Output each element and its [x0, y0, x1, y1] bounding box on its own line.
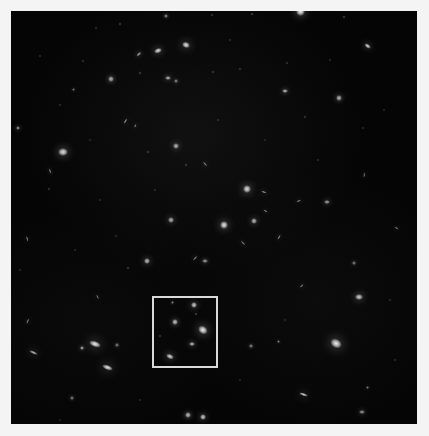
sky-source-point: [115, 235, 117, 237]
sky-source-point: [127, 267, 130, 270]
sky-source-point: [239, 379, 241, 381]
sky-source-point: [359, 410, 364, 414]
sky-source-point: [119, 23, 122, 26]
sky-source-edge-on: [299, 284, 304, 289]
sky-source-point: [59, 419, 61, 421]
sky-source-edge-on: [299, 392, 309, 398]
sky-source-edge-on: [96, 294, 100, 300]
sky-source-point: [108, 76, 113, 81]
sky-source-point: [249, 344, 253, 348]
sky-source-point: [80, 346, 84, 350]
sky-source-point: [202, 259, 207, 263]
sky-source-point: [362, 127, 364, 129]
sky-source-edge-on: [25, 236, 29, 243]
sky-source-point: [264, 139, 266, 141]
sky-source-star: [220, 221, 229, 229]
sky-source-edge-on: [26, 318, 30, 324]
sky-source-point: [211, 14, 213, 16]
sky-source-point: [366, 386, 369, 389]
sky-source-point: [95, 27, 97, 29]
sky-source-point: [164, 14, 167, 17]
sky-source-galaxy: [251, 218, 257, 224]
sky-source-edge-on: [240, 240, 246, 246]
sky-source-edge-on: [192, 255, 198, 261]
sky-source-point: [39, 55, 41, 57]
sky-source-star: [296, 11, 305, 16]
sky-field: [11, 11, 417, 424]
sky-source-point: [48, 188, 50, 190]
sky-source-galaxy: [282, 89, 288, 94]
sky-source-edge-on: [261, 190, 267, 194]
sky-source-galaxy: [58, 148, 67, 156]
sky-source-galaxy: [144, 258, 151, 264]
sky-source-galaxy: [355, 294, 363, 300]
region-of-interest-box[interactable]: [152, 296, 218, 368]
sky-source-point: [394, 359, 396, 361]
sky-source-point: [383, 109, 385, 111]
sky-source-edge-on: [28, 349, 37, 355]
sky-source-point: [154, 189, 156, 191]
sky-source-edge-on: [393, 226, 398, 230]
sky-source-edge-on: [296, 199, 302, 203]
sky-source-point: [174, 79, 178, 82]
sky-source-edge-on: [48, 168, 52, 174]
sky-source-point: [251, 13, 254, 16]
sky-source-point: [82, 60, 84, 62]
sky-source-galaxy: [336, 95, 342, 100]
sky-source-point: [217, 119, 219, 121]
sky-source-point: [59, 104, 61, 106]
sky-source-galaxy: [173, 143, 179, 148]
sky-source-galaxy: [165, 76, 171, 81]
sky-source-point: [139, 72, 142, 75]
sky-source-edge-on: [202, 161, 208, 167]
sky-source-point: [147, 151, 149, 153]
deep-field-viewer: Deep field exposure with a highlighted r…: [0, 0, 429, 436]
sky-source-edge-on: [133, 124, 137, 129]
sky-source-edge-on: [363, 172, 366, 177]
sky-source-edge-on: [136, 51, 142, 57]
sky-source-point: [324, 200, 329, 204]
sky-source-point: [139, 399, 141, 401]
sky-source-point: [185, 164, 188, 167]
sky-source-point: [239, 68, 241, 70]
sky-source-galaxy: [243, 185, 252, 193]
sky-source-edge-on: [263, 209, 268, 213]
sky-source-point: [89, 139, 91, 141]
sky-source-point: [19, 269, 21, 271]
sky-source-star: [200, 414, 206, 420]
sky-source-galaxy: [181, 41, 191, 50]
sky-source-point: [317, 159, 319, 161]
sky-source-point: [16, 126, 20, 130]
sky-source-point: [70, 396, 73, 399]
sky-source-galaxy: [185, 412, 191, 417]
sky-source-point: [343, 16, 346, 19]
sky-source-edge-on: [277, 234, 282, 240]
sky-source-galaxy: [168, 217, 174, 222]
sky-source-galaxy: [153, 47, 162, 55]
sky-source-galaxy: [364, 42, 372, 50]
sky-source-edge-on: [122, 118, 127, 125]
sky-source-point: [229, 39, 231, 41]
sky-source-spiral: [328, 337, 343, 351]
sky-source-edge-on-spiral: [88, 339, 101, 349]
sky-source-point: [277, 340, 280, 343]
sky-source-point: [72, 88, 75, 91]
sky-source-point: [74, 249, 76, 251]
sky-source-point: [99, 199, 101, 201]
sky-source-point: [389, 299, 391, 301]
sky-source-point: [329, 59, 331, 61]
sky-source-point: [115, 343, 118, 346]
sky-source-edge-on-spiral: [102, 364, 114, 373]
sky-source-point: [286, 62, 288, 64]
sky-source-point: [304, 116, 306, 118]
sky-source-point: [284, 319, 286, 321]
sky-source-point: [212, 71, 214, 73]
sky-source-point: [352, 261, 355, 264]
